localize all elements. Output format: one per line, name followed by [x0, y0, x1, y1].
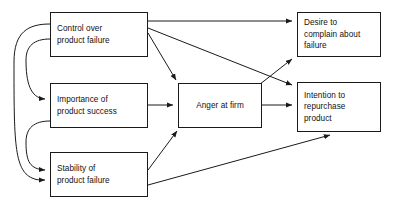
edge-stability-intention	[148, 135, 330, 185]
edge-control-anger	[148, 33, 176, 80]
node-desire-to-complain-about-failure[interactable]: Desire to complain about failure	[297, 12, 381, 57]
node-label: Desire to complain about failure	[304, 17, 360, 51]
node-label: Anger at firm	[196, 100, 244, 111]
node-label: Control over product failure	[57, 23, 110, 46]
node-anger-at-firm[interactable]: Anger at firm	[178, 83, 262, 128]
node-importance-of-product-success[interactable]: Importance of product success	[50, 83, 148, 128]
edge-control-stability-correlation	[14, 24, 50, 180]
edge-control-importance-correlation	[26, 39, 50, 99]
node-label: Intention to repurchase product	[304, 90, 345, 124]
node-stability-of-product-failure[interactable]: Stability of product failure	[50, 152, 148, 197]
node-control-over-product-failure[interactable]: Control over product failure	[50, 12, 148, 57]
node-label: Stability of product failure	[57, 163, 110, 186]
edge-importance-stability-correlation	[26, 121, 50, 170]
node-label: Importance of product success	[57, 94, 117, 117]
edge-stability-anger	[148, 131, 177, 170]
node-intention-to-repurchase-product[interactable]: Intention to repurchase product	[297, 82, 381, 132]
path-diagram: Control over product failure Importance …	[0, 0, 398, 207]
